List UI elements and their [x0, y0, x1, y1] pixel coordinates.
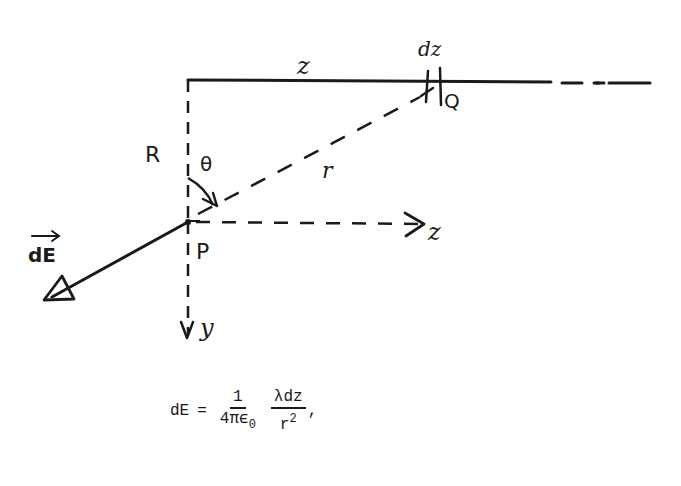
dz-element-marks [421, 68, 441, 105]
r-squared-exponent: 2 [289, 412, 296, 426]
label-r: r [322, 158, 334, 183]
field-equation: dE = 1 4πϵ0 λdz r2 , [170, 388, 317, 434]
label-dz: dz [418, 37, 442, 61]
fraction-coulomb-constant: 1 4πϵ0 [217, 388, 259, 434]
label-z-top: z [296, 52, 310, 80]
equation-equals: = [197, 402, 207, 420]
fraction2-denominator-main: r [280, 416, 290, 434]
diagram-canvas: z dz Q R θ r P z y dE [0, 0, 681, 486]
label-de: dE [28, 243, 56, 267]
equation-lhs: dE [170, 402, 189, 420]
fraction2-numerator: λdz [271, 388, 306, 409]
fraction1-denominator-main: 4πϵ [220, 410, 249, 428]
line-charge [188, 80, 551, 82]
de-vector [52, 222, 188, 297]
label-p: P [196, 239, 209, 264]
diagram-stage: z dz Q R θ r P z y dE dE = 1 4πϵ0 λdz r2… [0, 0, 681, 486]
fraction1-numerator: 1 [230, 388, 246, 409]
r-line [198, 97, 420, 214]
fraction1-denominator: 4πϵ0 [217, 409, 259, 434]
label-y-axis: y [199, 314, 214, 342]
label-r-distance: R [145, 142, 160, 167]
label-q: Q [444, 89, 460, 113]
fraction2-denominator: r2 [277, 409, 300, 434]
z-axis [196, 222, 424, 224]
label-theta: θ [200, 152, 212, 176]
de-vector-overarrow-icon [32, 231, 59, 241]
label-z-axis: z [427, 218, 441, 246]
de-vector-arrowhead [44, 276, 74, 300]
equation-trailing-comma: , [308, 402, 318, 420]
fraction-charge-over-distance: λdz r2 [271, 388, 306, 434]
epsilon-subscript: 0 [249, 418, 256, 432]
